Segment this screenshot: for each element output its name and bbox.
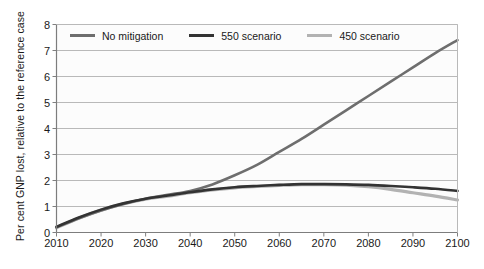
legend-item-no-mitigation[interactable]: No mitigation [70, 30, 163, 42]
legend-swatch-icon [70, 34, 95, 37]
y-tick-label: 4 [26, 123, 50, 135]
legend-label: 550 scenario [221, 30, 281, 42]
x-tick-label: 2090 [391, 236, 435, 250]
x-tick-label: 2030 [124, 236, 168, 250]
x-axis-tick-labels: 2010202020302040205020602070208020902100 [0, 236, 484, 252]
y-tick-label: 6 [26, 71, 50, 83]
legend-spacer [163, 35, 189, 36]
y-tick-label: 2 [26, 175, 50, 187]
x-tick-label: 2100 [436, 236, 480, 250]
x-tick-label: 2020 [79, 236, 123, 250]
x-tick-label: 2060 [257, 236, 301, 250]
x-tick-label: 2040 [168, 236, 212, 250]
legend-label: 450 scenario [339, 30, 399, 42]
legend-spacer [281, 35, 307, 36]
x-tick-label: 2080 [346, 236, 390, 250]
y-tick-label: 1 [26, 201, 50, 213]
y-tick-label: 3 [26, 149, 50, 161]
y-axis-tick-labels: 012345678 [26, 18, 50, 232]
legend-swatch-icon [307, 34, 332, 37]
y-tick-label: 8 [26, 19, 50, 31]
x-tick-label: 2050 [213, 236, 257, 250]
y-tick-label: 7 [26, 45, 50, 57]
x-tick-label: 2070 [302, 236, 346, 250]
x-tick-label: 2010 [35, 236, 79, 250]
gnp-loss-line-chart: Per cent GNP lost, relative to the refer… [0, 0, 484, 269]
y-tick-label: 5 [26, 97, 50, 109]
chart-legend: No mitigation550 scenario450 scenario [70, 28, 400, 43]
legend-swatch-icon [189, 34, 214, 37]
legend-item-450-scenario[interactable]: 450 scenario [307, 30, 399, 42]
legend-item-550-scenario[interactable]: 550 scenario [189, 30, 281, 42]
legend-label: No mitigation [102, 30, 163, 42]
